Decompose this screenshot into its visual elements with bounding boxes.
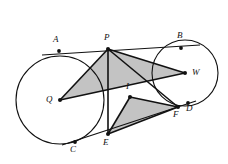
point-label-F: F [173, 110, 179, 119]
point-label-P: P [104, 33, 110, 42]
point-dot-W [183, 71, 187, 75]
point-dot-B [179, 46, 183, 50]
point-dot-Q [58, 98, 62, 102]
point-label-E: E [103, 138, 109, 147]
geometry-figure: A B P Q W C E I F D [0, 0, 228, 164]
point-label-A: A [53, 35, 59, 44]
triangle-Q-P-W-shade [60, 49, 185, 100]
point-dot-A [57, 49, 61, 53]
point-label-C: C [70, 145, 76, 154]
point-label-Q: Q [46, 95, 53, 104]
point-label-I: I [126, 82, 129, 91]
point-dot-P [106, 47, 110, 51]
point-label-D: D [186, 104, 193, 113]
geometry-canvas [0, 0, 228, 164]
point-label-W: W [192, 68, 200, 77]
point-dot-E [106, 132, 110, 136]
point-label-B: B [177, 31, 183, 40]
point-dot-I [128, 95, 132, 99]
